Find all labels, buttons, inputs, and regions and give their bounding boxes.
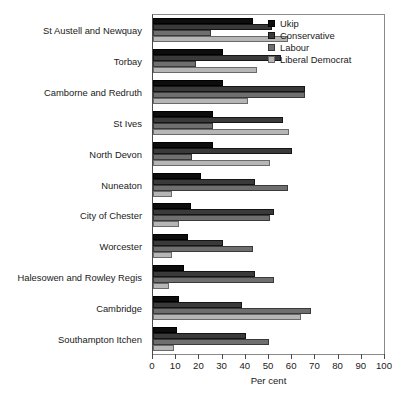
x-tick-mark: [152, 354, 153, 359]
x-tick-mark: [291, 354, 292, 359]
x-tick-mark: [222, 354, 223, 359]
x-tick-label: 40: [239, 360, 250, 371]
bar-libdem: [153, 221, 179, 227]
x-tick-label: 80: [332, 360, 343, 371]
x-tick-label: 30: [216, 360, 227, 371]
legend-swatch-icon: [268, 32, 275, 39]
category-label: Camborne and Redruth: [44, 87, 142, 98]
bar-libdem: [153, 283, 169, 289]
bar-group: [153, 111, 385, 135]
bar-libdem: [153, 98, 248, 104]
x-tick-label: 100: [376, 360, 392, 371]
legend-item-ukip: Ukip: [268, 18, 386, 30]
chart-legend: UkipConservativeLabourLiberal Democrat: [268, 18, 386, 66]
bar-group: [153, 80, 385, 104]
category-label: Worcester: [99, 241, 142, 252]
legend-label: Liberal Democrat: [280, 54, 351, 65]
category-axis: St Austell and NewquayTorbayCamborne and…: [0, 14, 148, 354]
category-label: Nuneaton: [101, 179, 142, 190]
bar-libdem: [153, 129, 289, 135]
category-label: City of Chester: [80, 210, 142, 221]
bar-chart: St Austell and NewquayTorbayCamborne and…: [0, 0, 404, 407]
legend-swatch-icon: [268, 20, 275, 27]
x-tick-label: 10: [170, 360, 181, 371]
x-tick-label: 20: [193, 360, 204, 371]
bar-libdem: [153, 160, 270, 166]
legend-label: Labour: [280, 42, 309, 53]
x-tick-mark: [245, 354, 246, 359]
x-tick-label: 60: [286, 360, 297, 371]
legend-item-libdem: Liberal Democrat: [268, 54, 386, 66]
x-axis-title: Per cent: [152, 375, 385, 386]
x-tick-mark: [175, 354, 176, 359]
category-label: St Austell and Newquay: [43, 25, 142, 36]
legend-item-conservative: Conservative: [268, 30, 386, 42]
bar-libdem: [153, 191, 172, 197]
category-label: Torbay: [114, 56, 142, 67]
x-tick-mark: [198, 354, 199, 359]
bar-group: [153, 234, 385, 258]
x-tick-label: 70: [309, 360, 320, 371]
category-label: Cambridge: [96, 302, 142, 313]
category-label: St Ives: [113, 117, 142, 128]
bar-group: [153, 265, 385, 289]
bar-libdem: [153, 345, 174, 351]
bar-libdem: [153, 314, 301, 320]
bar-labour: [153, 185, 288, 191]
x-tick-label: 90: [355, 360, 366, 371]
bar-group: [153, 203, 385, 227]
bar-group: [153, 296, 385, 320]
x-tick-label: 50: [263, 360, 274, 371]
legend-label: Ukip: [280, 18, 299, 29]
x-tick-mark: [338, 354, 339, 359]
bar-libdem: [153, 67, 257, 73]
x-tick-mark: [361, 354, 362, 359]
x-tick-label: 0: [149, 360, 154, 371]
x-tick-mark: [314, 354, 315, 359]
bar-group: [153, 142, 385, 166]
legend-item-labour: Labour: [268, 42, 386, 54]
bar-group: [153, 327, 385, 351]
legend-swatch-icon: [268, 44, 275, 51]
category-label: Southampton Itchen: [58, 333, 142, 344]
legend-swatch-icon: [268, 56, 275, 63]
category-label: Halesowen and Rowley Regis: [17, 271, 142, 282]
legend-label: Conservative: [280, 30, 335, 41]
bar-libdem: [153, 252, 172, 258]
x-tick-mark: [384, 354, 385, 359]
bar-labour: [153, 277, 274, 283]
x-tick-mark: [268, 354, 269, 359]
category-label: North Devon: [89, 148, 142, 159]
bar-group: [153, 173, 385, 197]
